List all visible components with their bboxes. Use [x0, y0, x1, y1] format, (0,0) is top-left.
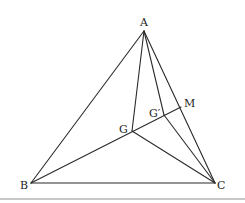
label-g: G [119, 123, 128, 136]
bottom-divider [0, 198, 245, 200]
label-b: B [20, 179, 28, 192]
segment-a-g [132, 31, 144, 131]
label-a: A [139, 16, 149, 29]
labels: A B C M G G′ [20, 16, 225, 192]
label-c: C [217, 179, 225, 192]
label-m: M [184, 97, 195, 110]
label-g-prime: G′ [149, 107, 161, 120]
segment-a-b [31, 31, 144, 183]
triangle-diagram: A B C M G G′ [0, 0, 245, 203]
segment-a-gp [144, 31, 164, 115]
segment-gp-c [164, 115, 215, 183]
